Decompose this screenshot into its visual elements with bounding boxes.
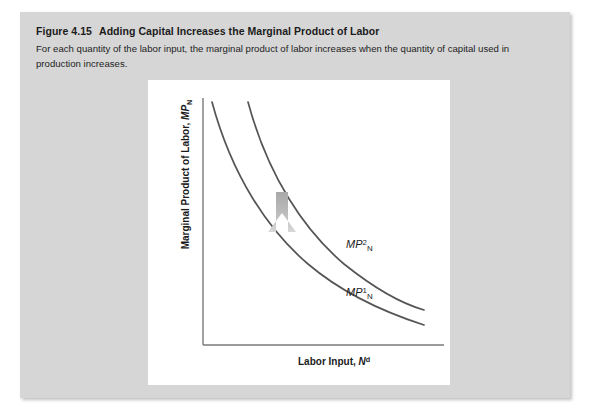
x-axis-label-var: N bbox=[359, 356, 366, 367]
curve-mp-n-1 bbox=[212, 102, 424, 325]
curve-mp-n-2 bbox=[248, 102, 424, 310]
x-axis-label: Labor Input, Nd bbox=[298, 355, 370, 367]
x-axis-label-text: Labor Input, bbox=[298, 356, 359, 367]
x-axis-label-sup: d bbox=[366, 355, 370, 364]
caption-block: Figure 4.15Adding Capital Increases the … bbox=[36, 24, 544, 71]
plot-panel: Marginal Product of Labor, MPN MP2N MP1N bbox=[148, 80, 450, 385]
curve-label-mp-n-1-base: MP bbox=[346, 286, 363, 298]
curve-label-mp-n-1-sub: N bbox=[367, 292, 373, 301]
curve-label-mp-n-2-sub: N bbox=[367, 244, 373, 253]
curve-label-mp-n-2-base: MP bbox=[346, 238, 363, 250]
figure-card: Figure 4.15Adding Capital Increases the … bbox=[20, 12, 570, 398]
figure-caption: For each quantity of the labor input, th… bbox=[36, 42, 544, 71]
curve-label-mp-n-1: MP1N bbox=[346, 286, 373, 301]
curve-label-mp-n-2: MP2N bbox=[346, 238, 373, 253]
curves-layer bbox=[148, 80, 450, 385]
figure-title-text: Adding Capital Increases the Marginal Pr… bbox=[99, 25, 379, 37]
figure-number: Figure 4.15 bbox=[36, 25, 92, 37]
figure-title: Figure 4.15Adding Capital Increases the … bbox=[36, 24, 544, 38]
